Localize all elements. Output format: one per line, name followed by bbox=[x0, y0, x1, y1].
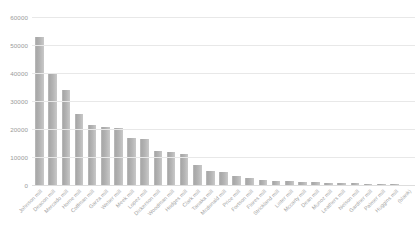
bar[interactable] bbox=[88, 125, 97, 185]
y-axis-tick-label: 30000 bbox=[10, 98, 28, 105]
x-axis-labels: Johnson millDeacon millMercado millHorne… bbox=[32, 187, 415, 239]
bar[interactable] bbox=[219, 172, 228, 185]
bar[interactable] bbox=[193, 165, 202, 185]
y-axis-tick-label: 0 bbox=[24, 182, 28, 189]
bar-chart: 0100002000030000400005000060000 Johnson … bbox=[0, 0, 417, 239]
bar[interactable] bbox=[232, 176, 241, 185]
bar[interactable] bbox=[62, 90, 71, 185]
x-axis-label-slot: Leathers mill bbox=[336, 187, 349, 239]
bar[interactable] bbox=[180, 154, 189, 185]
y-axis-tick-label: 40000 bbox=[10, 70, 28, 77]
x-axis-label-slot: Lister mill bbox=[283, 187, 296, 239]
y-axis: 0100002000030000400005000060000 bbox=[0, 0, 32, 186]
gridline bbox=[32, 45, 415, 46]
gridline bbox=[32, 17, 415, 18]
y-axis-tick-label: 60000 bbox=[10, 14, 28, 21]
gridline bbox=[32, 185, 415, 186]
bar[interactable] bbox=[101, 127, 110, 185]
y-axis-tick-label: 50000 bbox=[10, 42, 28, 49]
y-axis-tick-label: 20000 bbox=[10, 126, 28, 133]
x-axis-label-slot: Strickland mill bbox=[270, 187, 283, 239]
gridline bbox=[32, 129, 415, 130]
y-axis-tick-label: 10000 bbox=[10, 154, 28, 161]
bar[interactable] bbox=[245, 178, 254, 185]
bar[interactable] bbox=[75, 114, 84, 185]
bar[interactable] bbox=[140, 139, 149, 185]
x-axis-label-slot: (blank) bbox=[402, 187, 415, 239]
plot-area bbox=[32, 17, 415, 185]
gridline bbox=[32, 73, 415, 74]
gridline bbox=[32, 157, 415, 158]
x-axis-label-slot: Mcdonald mill bbox=[217, 187, 230, 239]
bar[interactable] bbox=[206, 171, 215, 185]
x-axis-label-slot: Coffman mill bbox=[85, 187, 98, 239]
bar[interactable] bbox=[35, 37, 44, 185]
gridline bbox=[32, 101, 415, 102]
bar[interactable] bbox=[127, 138, 136, 185]
